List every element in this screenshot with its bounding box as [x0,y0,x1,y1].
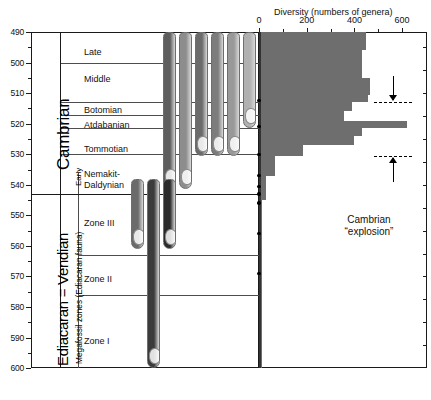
x-tick [354,28,355,32]
taxon-range-bar: Sinotubulites [163,179,176,249]
right-edge-tick [423,116,427,117]
system-label-ediacaran: Ediacaran = Vendian [54,233,71,366]
taxon-range-bar: Cloudina [131,179,144,249]
guide-arrow-head [389,95,397,101]
diversity-step [259,78,370,95]
annotation-line-2: “explosion” [319,226,419,238]
taxon-range-bar: Anabarites [163,32,176,189]
age-tick-label: 570 [0,271,24,281]
taxon-range-bar: Trilobites [243,32,256,128]
event-marker-dot [257,153,260,156]
diversity-step [259,102,352,111]
right-edge-tick [423,185,427,186]
age-tick-label: 500 [0,58,24,68]
right-edge-tick [423,47,427,48]
age-tick-label: 550 [0,210,24,220]
taxon-range-bar: Barchiopods [211,32,224,156]
event-marker-dot [257,201,260,204]
fossil-icon [165,229,176,245]
stage-boundary-line [79,255,259,256]
age-tick-label: 510 [0,88,24,98]
x-tick-minor [283,29,284,32]
annotation-line-1: Cambrian [319,214,419,226]
diversity-step [259,156,275,176]
diversity-step [259,95,368,103]
age-tick-label: 560 [0,241,24,251]
fossil-icon [133,229,144,245]
diversity-step [259,128,362,136]
right-edge-tick [423,93,427,94]
stage-label-atdabanian: Atdabanian [84,120,130,130]
epoch-label-early: Early [74,168,83,186]
age-tick-label: 600 [0,363,24,373]
fossil-icon [213,136,224,152]
x-tick-minor [331,29,332,32]
zone-label-i: Zone I [84,336,110,346]
x-tick [307,28,308,32]
x-tick-minor [378,29,379,32]
right-edge-tick [423,70,427,71]
guide-dashed-line [374,102,412,103]
right-edge-tick [423,254,427,255]
x-tick [402,28,403,32]
stage-label-late: Late [84,47,102,57]
zone-label-iii: Zone III [84,218,115,228]
right-edge-tick [423,322,427,323]
right-edge-tick [423,139,427,140]
cambrian-explosion-annotation: Cambrian “explosion” [319,214,419,238]
taxon-range-bar: Archaeocyathans [195,32,208,156]
diversity-step [259,111,344,120]
age-tick-label: 490 [0,27,24,37]
diversity-step [259,145,303,156]
stage-label-middle: Middle [84,74,111,84]
age-tick-label: 520 [0,119,24,129]
stage-boundary-line [79,295,259,296]
fossil-icon [149,348,160,364]
right-edge-tick [423,299,427,300]
right-edge-tick [423,208,427,209]
event-marker-dot [257,232,260,235]
event-marker-dot [257,272,260,275]
diversity-chart: 0200400600 Cambrian “explosion” [259,32,427,368]
diversity-step [259,121,407,129]
figure-root: 490500510520530540550560570580590600 Cam… [0,0,431,400]
diversity-zero-axis [259,32,261,368]
diversity-step [259,136,354,145]
event-marker-dot [257,174,260,177]
fossil-icon [181,169,192,185]
right-edge-tick [423,162,427,163]
stage-label-nemakit-daldynian-text: Nemakit-Daldynian [84,169,124,190]
age-tick-major [26,368,31,369]
diversity-axis-title: Diversity (numbers of genera) [274,7,393,17]
fossil-icon [197,136,208,152]
right-edge-tick [423,345,427,346]
fossil-icon [229,136,240,152]
taxon-range-bar: Ediacaran fauna [147,179,160,368]
megafossil-zones-label: Megafossil zones (Ediacaran fauna) [74,232,84,364]
system-label-cambrian: Cambrian [54,99,74,170]
age-tick-label: 540 [0,180,24,190]
right-edge-tick [423,276,427,277]
guide-arrow-head [389,157,397,163]
age-tick-label: 590 [0,333,24,343]
stage-boundary-line [32,194,259,195]
event-marker-dot [257,192,260,195]
stage-label-botomian: Botomian [84,105,122,115]
right-edge-tick [423,231,427,232]
age-tick-label: 530 [0,149,24,159]
stage-label-tommotian: Tommotian [84,144,128,154]
age-tick-label: 580 [0,302,24,312]
zone-label-ii: Zone II [84,274,112,284]
x-tick [259,28,260,32]
diversity-step [259,32,366,50]
diversity-step [259,50,362,78]
taxon-range-bar: Arthropod traces [179,32,192,189]
taxon-range-bar: Deep vertical burrows [227,32,240,156]
x-tick-label: 0 [239,15,279,25]
fossil-icon [245,108,256,124]
event-marker-dot [257,185,260,188]
